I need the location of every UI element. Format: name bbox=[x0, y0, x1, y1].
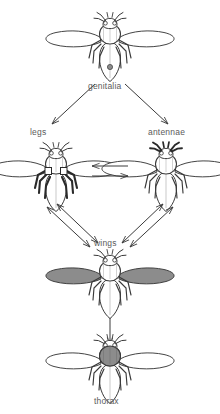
fly-node-legs bbox=[0, 143, 120, 212]
fly-node-thorax bbox=[46, 335, 174, 404]
fly-node-wings bbox=[46, 250, 174, 319]
arrow-antennae-wings-b bbox=[122, 204, 163, 243]
diagram-canvas: genitalia legs antennae wings thorax bbox=[0, 0, 220, 414]
arrow-genitalia-to-antennae bbox=[125, 84, 168, 124]
label-thorax: thorax bbox=[94, 397, 119, 406]
fly-node-genitalia bbox=[46, 13, 174, 82]
arrow-legs-wings-b bbox=[57, 204, 98, 243]
fly-transformation-diagram bbox=[0, 0, 220, 414]
label-wings: wings bbox=[94, 239, 117, 248]
arrow-legs-wings-a bbox=[47, 207, 90, 247]
label-legs: legs bbox=[30, 128, 46, 137]
fly-node-antennae bbox=[102, 142, 220, 212]
genitalia-highlight-spot bbox=[107, 64, 112, 69]
label-antennae: antennae bbox=[148, 128, 185, 137]
label-genitalia: genitalia bbox=[88, 82, 121, 91]
arrow-antennae-wings-a bbox=[130, 207, 173, 247]
